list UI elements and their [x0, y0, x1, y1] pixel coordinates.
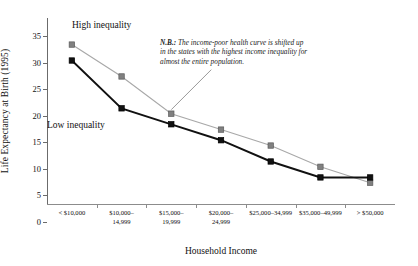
y-axis-tick-label: 10	[33, 164, 42, 174]
data-point-marker	[169, 111, 174, 116]
data-point-marker	[318, 164, 323, 169]
data-point-marker	[367, 180, 372, 185]
series-label-low-inequality: Low inequality	[47, 120, 105, 130]
y-axis-tick-label: 30	[33, 58, 42, 68]
y-axis-title-text: Life Expectancy at Birth (1995)	[0, 49, 10, 173]
series-line-low-inequality	[72, 61, 370, 178]
x-axis-title: Household Income	[47, 246, 395, 256]
data-point-marker	[69, 58, 74, 63]
data-point-marker	[169, 122, 174, 127]
data-point-marker	[268, 143, 273, 148]
data-point-marker	[268, 159, 273, 164]
data-point-marker	[367, 175, 372, 180]
y-axis-tick-label: 35	[33, 31, 42, 41]
y-axis-tick-label: 0	[37, 217, 41, 227]
series-label-high-inequality: High inequality	[72, 20, 131, 30]
data-point-marker	[318, 175, 323, 180]
data-point-marker	[218, 138, 223, 143]
annotation-note-text: The income-poor health curve is shifted …	[160, 38, 307, 66]
annotation-leader-line	[171, 70, 211, 110]
y-axis-tick-label: 5	[37, 190, 41, 200]
data-point-marker	[119, 106, 124, 111]
y-axis-title: Life Expectancy at Birth (1995)	[0, 18, 12, 204]
y-axis-tick-label: 25	[33, 84, 42, 94]
chart-container: Life Expectancy at Birth (1995) 05101520…	[0, 0, 418, 266]
data-point-marker	[218, 127, 223, 132]
y-axis-tick-label: 15	[33, 137, 42, 147]
y-axis-tick-label: 20	[33, 111, 42, 121]
x-axis-line	[47, 204, 395, 205]
x-axis-title-text: Household Income	[185, 246, 257, 256]
y-axis-tick	[43, 222, 47, 223]
data-point-marker	[69, 42, 74, 47]
annotation-note-prefix: N.B.:	[160, 38, 176, 47]
data-point-marker	[119, 74, 124, 79]
annotation-note: N.B.: The income-poor health curve is sh…	[160, 38, 310, 66]
x-axis-category-label: > $50,000	[339, 208, 401, 217]
